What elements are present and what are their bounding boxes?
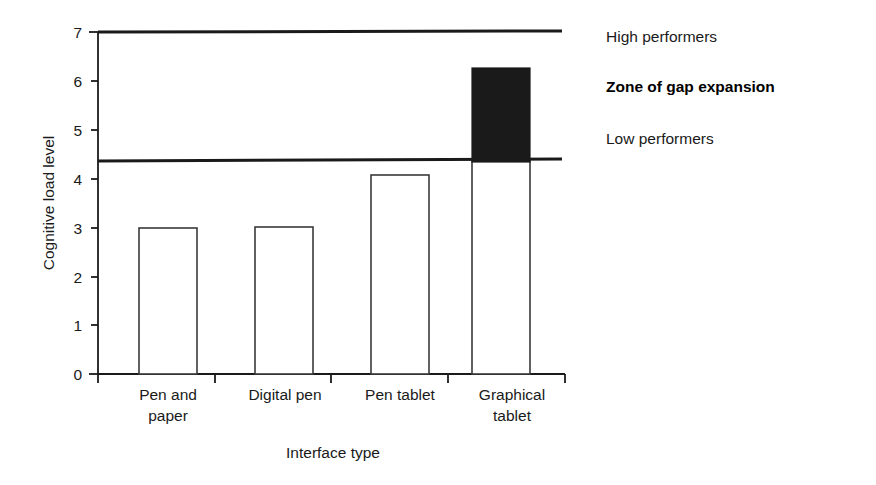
category-label-digital-pen: Digital pen [248,386,321,403]
y-axis [89,32,98,374]
annotation-legend: High performers Zone of gap expansion Lo… [606,0,876,485]
x-axis-title: Interface type [286,444,380,461]
bar-graphical-tablet-upper [472,68,530,162]
y-tick-label-6: 6 [73,73,82,90]
y-tick-label-0: 0 [73,366,82,383]
y-axis-title: Cognitive load level [40,136,57,270]
annotation-high-performers: High performers [606,28,717,45]
low-performers-line [98,159,562,161]
bars [139,68,530,374]
y-tick-label-2: 2 [73,269,82,286]
bar-digital-pen [255,227,313,374]
y-tick-labels: 7 6 5 4 3 2 1 0 [73,24,82,383]
bar-pen-and-paper [139,228,197,374]
y-tick-label-7: 7 [73,24,82,41]
annotation-zone-of-gap-expansion: Zone of gap expansion [606,78,775,95]
bar-graphical-tablet-lower [472,161,530,374]
category-label-graphical-tablet-line1: Graphical [479,386,545,403]
y-tick-label-1: 1 [73,317,82,334]
category-label-pen-tablet: Pen tablet [365,386,435,403]
category-label-graphical-tablet-line2: tablet [493,407,532,424]
category-label-pen-and-paper-line2: paper [148,407,188,424]
chart-figure: 7 6 5 4 3 2 1 0 Cognitive load level [0,0,876,485]
x-category-labels: Pen and paper Digital pen Pen tablet Gra… [139,386,545,424]
bar-graphical-tablet [472,68,530,374]
y-tick-label-3: 3 [73,220,82,237]
category-label-pen-and-paper-line1: Pen and [139,386,197,403]
x-axis [98,374,565,383]
y-tick-label-4: 4 [73,171,82,188]
bar-pen-tablet [371,175,429,374]
high-performers-line [98,31,562,32]
annotation-low-performers: Low performers [606,130,714,147]
y-tick-label-5: 5 [73,122,82,139]
